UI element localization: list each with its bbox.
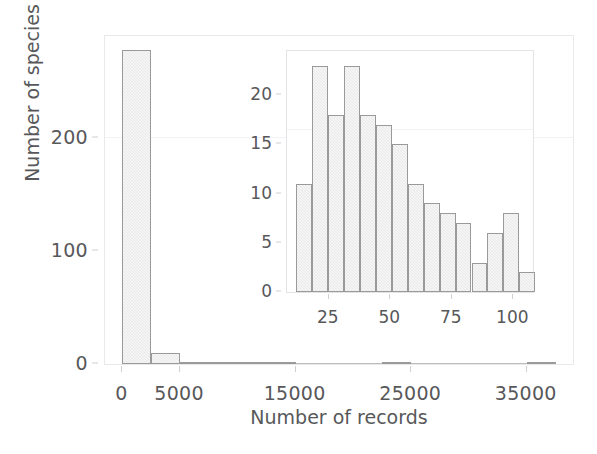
y-tick-mark [276, 94, 281, 95]
inset-plot-frame [286, 50, 534, 293]
x-tick-label: 75 [440, 307, 462, 327]
histogram-bar [440, 363, 469, 364]
histogram-bar [325, 363, 354, 364]
histogram-bar [360, 115, 376, 292]
y-tick-label: 200 [51, 126, 88, 148]
y-tick-label: 10 [250, 183, 272, 203]
histogram-bar [209, 362, 238, 364]
y-axis-title: Number of species [21, 0, 43, 243]
x-tick-mark [526, 366, 527, 372]
histogram-figure: 0100200 Number of species 05000150002500… [0, 0, 597, 454]
y-tick-label: 20 [250, 84, 272, 104]
x-axis-title: Number of records [104, 406, 574, 428]
y-tick-mark [276, 143, 281, 144]
histogram-bar [408, 184, 424, 292]
histogram-bar [527, 362, 556, 364]
histogram-bar [180, 362, 209, 364]
histogram-bar [519, 272, 535, 292]
y-tick-mark [276, 192, 281, 193]
histogram-bar [382, 362, 411, 364]
x-tick-mark [121, 366, 122, 372]
histogram-bar [353, 363, 382, 364]
histogram-bar [296, 363, 325, 364]
y-tick-mark [276, 291, 281, 292]
histogram-bar [376, 125, 392, 292]
main-y-axis: 0100200 [0, 35, 104, 365]
y-tick-mark [92, 136, 98, 137]
y-tick-label: 5 [261, 232, 272, 252]
x-tick-mark [410, 366, 411, 372]
x-tick-label: 50 [378, 307, 400, 327]
histogram-bar [487, 233, 503, 292]
histogram-bar [238, 362, 267, 364]
histogram-bar [151, 353, 180, 364]
x-tick-label: 15000 [264, 382, 326, 404]
x-tick-label: 25000 [379, 382, 441, 404]
histogram-bar [469, 363, 498, 364]
main-x-axis: 05000150002500035000 [104, 366, 574, 400]
x-tick-mark [451, 294, 452, 299]
inset-plot-area [287, 51, 533, 292]
x-tick-label: 35000 [495, 382, 557, 404]
histogram-bar [456, 223, 472, 292]
y-tick-mark [92, 363, 98, 364]
y-tick-label: 100 [51, 239, 88, 261]
y-tick-label: 0 [261, 281, 272, 301]
histogram-bar [503, 213, 519, 292]
x-tick-label: 25 [317, 307, 339, 327]
x-tick-label: 100 [496, 307, 528, 327]
histogram-bar [498, 363, 527, 364]
histogram-bar [312, 66, 328, 292]
histogram-bar [344, 66, 360, 292]
y-tick-label: 15 [250, 133, 272, 153]
histogram-bar [440, 213, 456, 292]
x-tick-mark [179, 366, 180, 372]
x-tick-label: 5000 [154, 382, 204, 404]
y-tick-label: 0 [76, 352, 88, 374]
histogram-bar [424, 203, 440, 292]
x-tick-mark [389, 294, 390, 299]
x-tick-mark [295, 366, 296, 372]
histogram-bar [267, 362, 296, 364]
histogram-bar [411, 363, 440, 364]
histogram-bar [472, 263, 488, 293]
x-tick-label: 0 [115, 382, 127, 404]
y-tick-mark [276, 241, 281, 242]
x-tick-mark [328, 294, 329, 299]
x-tick-mark [512, 294, 513, 299]
inset-y-axis: 05101520 [236, 50, 286, 293]
y-tick-mark [92, 249, 98, 250]
inset-x-axis: 255075100 [286, 294, 534, 324]
histogram-bar [328, 115, 344, 292]
histogram-bar [392, 144, 408, 292]
histogram-bar [122, 50, 151, 364]
histogram-bar [296, 184, 312, 292]
